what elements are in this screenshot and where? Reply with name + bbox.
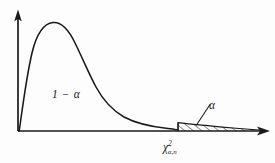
chi-subscript: α,n: [168, 148, 177, 156]
tail-region-label: α: [209, 99, 215, 111]
confidence-region-label: 1 − α: [52, 88, 80, 100]
y-axis: [14, 10, 22, 132]
chi-square-distribution-chart: [0, 0, 275, 163]
alpha-tail-region: [178, 123, 262, 131]
chi-superscript: 2: [168, 139, 172, 148]
chi-square-figure-container: 1 − α α χ2α,n: [0, 0, 275, 163]
alpha-leader-line: [197, 105, 211, 126]
chi-square-density-curve: [19, 23, 178, 131]
curve-tail-join: [168, 123, 178, 129]
critical-value-axis-label: χ2α,n: [163, 139, 177, 156]
